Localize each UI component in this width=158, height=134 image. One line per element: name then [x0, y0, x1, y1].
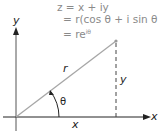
angle-label: θ [60, 96, 66, 108]
equation-line-3-base: = re [63, 28, 86, 40]
y-axis-arrow-icon [13, 27, 19, 35]
equation-line-1: z = x + iy [57, 2, 109, 13]
x-axis-label: x [151, 111, 158, 123]
vertical-component-label: y [120, 74, 127, 86]
x-axis-arrow-icon [143, 114, 151, 120]
equation-line-3: = reiθ [63, 26, 91, 40]
complex-polar-diagram: z = x + iy = r(cos θ + i sin θ) = reiθ y… [0, 0, 158, 134]
equation-line-2: = r(cos θ + i sin θ) [63, 14, 158, 25]
y-axis-label: y [13, 15, 20, 27]
equation-line-3-exponent: iθ [86, 28, 91, 35]
radius-label: r [63, 63, 68, 75]
point-z [114, 39, 117, 42]
horizontal-component-label: x [72, 119, 79, 131]
